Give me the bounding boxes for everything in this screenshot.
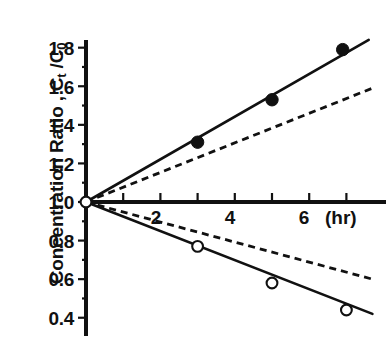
- data-point-upper-filled-points-5: [266, 94, 278, 106]
- data-point-lower-open-points-0: [81, 197, 92, 208]
- data-point-upper-filled-points-3: [191, 136, 203, 148]
- fit-lines-group: [86, 40, 372, 314]
- data-point-lower-open-points-3: [192, 241, 203, 252]
- data-point-upper-filled-points-6.9: [336, 43, 348, 55]
- data-point-lower-open-points-7: [341, 305, 352, 316]
- plot-canvas: [0, 0, 388, 354]
- axes-group: [86, 40, 386, 336]
- upper-solid-fit: [86, 40, 369, 202]
- chart-figure: Concentration Ratio , Ct /C0 1.8 1.6 1.4…: [0, 0, 388, 354]
- lower-dashed-fit: [86, 202, 372, 279]
- data-point-lower-open-points-5: [267, 278, 278, 289]
- upper-dashed-fit: [86, 88, 372, 202]
- lower-solid-fit: [86, 202, 372, 314]
- data-points-group: [81, 43, 352, 315]
